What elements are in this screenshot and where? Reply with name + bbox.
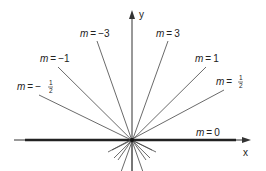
x-axis-label: x — [243, 147, 248, 158]
y-axis-arrow-icon — [129, 10, 135, 19]
svg-text:m=−1: m=−1 — [40, 53, 70, 64]
svg-text:1: 1 — [49, 79, 53, 86]
slope-diagram: y x m=−3 m=3 m=−1 m=1 — [0, 0, 266, 171]
svg-text:m=−: m=− — [17, 81, 41, 92]
label-m-half: m= 1 2 — [216, 74, 243, 89]
svg-text:m=0: m=0 — [196, 127, 220, 138]
line-m-1 — [114, 67, 206, 158]
label-m-0: m=0 — [196, 127, 220, 138]
line-m-neg3 — [97, 41, 143, 171]
label-m-neg1: m=−1 — [40, 53, 70, 64]
label-m-neg3: m=−3 — [80, 28, 110, 39]
label-m-neg-half: m=− 1 2 — [17, 79, 53, 94]
label-m-1: m=1 — [195, 53, 219, 64]
y-axis-label: y — [139, 9, 144, 20]
svg-text:m=1: m=1 — [195, 53, 219, 64]
svg-text:2: 2 — [49, 87, 53, 94]
label-m-3: m=3 — [156, 28, 180, 39]
svg-text:m=: m= — [216, 76, 232, 87]
svg-text:m=3: m=3 — [156, 28, 180, 39]
origin-point — [130, 138, 134, 142]
line-m-neg1 — [58, 67, 150, 158]
svg-text:2: 2 — [239, 82, 243, 89]
svg-text:1: 1 — [239, 74, 243, 81]
svg-text:m=−3: m=−3 — [80, 28, 110, 39]
line-m-3 — [121, 41, 168, 171]
x-axis-arrow-icon — [242, 137, 251, 143]
